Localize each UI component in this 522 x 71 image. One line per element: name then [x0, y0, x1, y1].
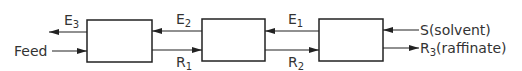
feed-label: Feed: [14, 44, 47, 58]
r3-label: R3(raffinate): [420, 41, 506, 55]
r1-label: R1: [176, 55, 192, 69]
stage-2-box: [202, 19, 265, 61]
e3-label: E3: [64, 13, 79, 27]
e2-label: E2: [176, 12, 191, 26]
r2-label: R2: [288, 55, 304, 69]
stage-3-box: [319, 19, 383, 61]
solvent-label: S(solvent): [420, 23, 491, 37]
stage-1-box: [87, 20, 152, 62]
e1-label: E1: [288, 12, 303, 26]
